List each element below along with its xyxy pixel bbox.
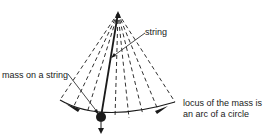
label-mass-on-string: mass on a string (2, 70, 68, 81)
label-locus-line2: an arc of a circle (183, 109, 262, 120)
label-string: string (145, 27, 167, 38)
gravity-arrow-head (98, 128, 104, 134)
label-locus-line1: locus of the mass is (183, 98, 262, 109)
pendulum-string (101, 13, 118, 117)
label-locus: locus of the mass is an arc of a circle (183, 98, 262, 120)
pivot-point (115, 11, 121, 18)
